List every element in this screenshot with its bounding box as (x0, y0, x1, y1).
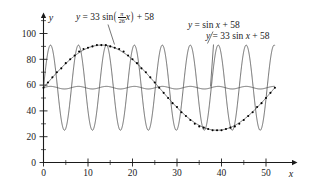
data-point (172, 102, 174, 104)
data-point (212, 129, 214, 131)
eq-lhs: y (206, 31, 210, 41)
y-axis-tick-labels: 0 20 40 60 80 100 (22, 29, 37, 168)
eq-lhs: y (188, 20, 192, 30)
data-point (123, 51, 125, 53)
data-point (225, 128, 227, 130)
data-point (78, 51, 80, 53)
data-point (229, 127, 231, 129)
data-point (176, 106, 178, 108)
x-tick-label: 50 (261, 168, 271, 178)
data-point (265, 97, 267, 99)
data-point (256, 106, 258, 108)
y-axis-label: y (48, 12, 54, 23)
equation-label-slow-sine: y = 33 sin(π26x) + 58 (76, 9, 154, 25)
y-tick-label: 40 (27, 106, 37, 116)
data-point (274, 87, 276, 89)
data-point (42, 87, 44, 89)
data-point (140, 67, 142, 69)
eq-plus: + (222, 20, 227, 30)
eq-coefficient: 33 (90, 12, 100, 22)
eq-lhs: y (76, 12, 80, 22)
data-point (238, 123, 240, 125)
data-point (180, 111, 182, 113)
eq-plus: + (252, 31, 257, 41)
y-tick-label: 20 (27, 132, 37, 142)
eq-constant: 58 (230, 20, 240, 30)
data-point (91, 45, 93, 47)
data-point (136, 62, 138, 64)
data-point (83, 48, 85, 50)
fraction-denominator: 26 (118, 17, 126, 24)
eq-coefficient: 33 (220, 31, 230, 41)
data-point (158, 87, 160, 89)
equation-label-tall-sine: y = 33 sin x + 58 (206, 32, 270, 42)
eq-equals: = (83, 12, 88, 22)
data-point (145, 71, 147, 73)
data-point (114, 47, 116, 49)
equation-label-small-sine: y = sin x + 58 (188, 21, 240, 31)
data-point (96, 44, 98, 46)
y-tick-label: 100 (22, 29, 37, 39)
eq-plus: + (137, 12, 142, 22)
eq-variable: x (216, 20, 220, 30)
eq-variable: x (246, 31, 250, 41)
data-point (194, 123, 196, 125)
eq-equals: = (195, 20, 200, 30)
x-tick-label: 30 (172, 168, 182, 178)
annotation-leader-lines (108, 25, 214, 87)
data-point (65, 62, 67, 64)
data-point (51, 76, 53, 78)
data-point (198, 125, 200, 127)
data-point (189, 119, 191, 121)
data-point (243, 119, 245, 121)
eq-variable: x (126, 12, 130, 22)
data-point (163, 92, 165, 94)
data-point (47, 81, 49, 83)
data-point (247, 115, 249, 117)
data-point (87, 47, 89, 49)
graph-figure: 0 10 20 30 40 50 0 20 40 60 80 100 x y (0, 0, 315, 183)
y-tick-label: 80 (27, 55, 37, 65)
eq-function: sin (202, 20, 213, 30)
data-point (234, 125, 236, 127)
left-paren-icon: ( (114, 9, 117, 22)
x-axis-label: x (288, 168, 294, 179)
data-point (100, 44, 102, 46)
data-point (252, 111, 254, 113)
data-point (56, 71, 58, 73)
eq-constant: 58 (260, 31, 270, 41)
data-point (167, 97, 169, 99)
data-point (149, 76, 151, 78)
eq-fraction: π26 (118, 11, 126, 25)
leader-line-slow (108, 25, 115, 45)
data-point (269, 92, 271, 94)
data-point (185, 115, 187, 117)
y-tick-label: 60 (27, 80, 37, 90)
data-point (154, 81, 156, 83)
data-point (69, 58, 71, 60)
data-point (216, 129, 218, 131)
data-point (261, 102, 263, 104)
x-axis-tick-labels: 0 10 20 30 40 50 (41, 168, 271, 178)
x-tick-label: 0 (41, 168, 46, 178)
data-point (60, 67, 62, 69)
eq-constant: 58 (145, 12, 155, 22)
x-tick-label: 40 (217, 168, 227, 178)
eq-function: sin (232, 31, 243, 41)
data-point (207, 128, 209, 130)
data-point (220, 129, 222, 131)
plot-canvas: 0 10 20 30 40 50 0 20 40 60 80 100 x y (0, 0, 315, 183)
data-point (203, 127, 205, 129)
data-point (127, 54, 129, 56)
right-paren-icon: ) (131, 9, 134, 22)
data-point (109, 45, 111, 47)
data-point (105, 44, 107, 46)
data-point (131, 58, 133, 60)
x-tick-label: 20 (128, 168, 138, 178)
eq-equals: = (213, 31, 218, 41)
x-tick-label: 10 (83, 168, 93, 178)
eq-function: sin (102, 12, 113, 22)
data-point (118, 48, 120, 50)
y-tick-label: 0 (31, 158, 36, 168)
data-point (74, 54, 76, 56)
